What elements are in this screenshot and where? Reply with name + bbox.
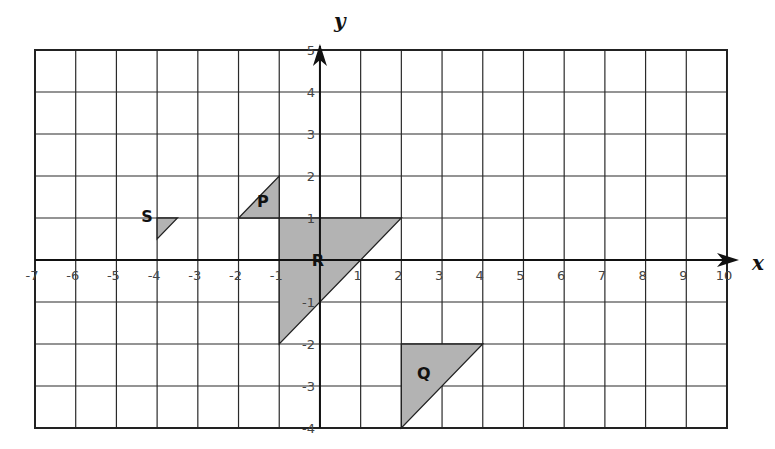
- triangle-s: [157, 218, 177, 239]
- y-tick-label: -2: [302, 337, 315, 352]
- x-tick-label: -6: [66, 268, 79, 283]
- x-tick-label: 4: [476, 268, 484, 283]
- y-tick-label: 5: [307, 43, 315, 58]
- y-tick-label: 2: [307, 169, 315, 184]
- coordinate-grid: PRQS -7-6-5-4-3-2-11234567891054321-1-2-…: [0, 0, 775, 449]
- x-tick-label: 3: [435, 268, 443, 283]
- x-tick-label: 6: [557, 268, 565, 283]
- shape-label-s: S: [141, 207, 153, 226]
- x-tick-label: 7: [598, 268, 606, 283]
- x-axis-label: x: [751, 251, 765, 275]
- x-tick-label: 5: [516, 268, 524, 283]
- x-tick-label: 10: [716, 268, 733, 283]
- x-tick-label: 1: [354, 268, 362, 283]
- y-tick-label: -1: [302, 295, 315, 310]
- y-tick-label: 1: [307, 211, 315, 226]
- y-axis-label: y: [333, 9, 347, 33]
- x-tick-label: 8: [638, 268, 646, 283]
- x-tick-label: -1: [270, 268, 283, 283]
- x-tick-label: -7: [26, 268, 39, 283]
- y-tick-label: 4: [307, 85, 315, 100]
- x-tick-label: 9: [679, 268, 687, 283]
- shape-label-p: P: [257, 192, 269, 211]
- x-tick-label: -4: [148, 268, 161, 283]
- axes: [35, 44, 739, 428]
- triangle-r: [279, 218, 401, 344]
- shape-label-q: Q: [417, 364, 431, 383]
- x-tick-label: -3: [188, 268, 201, 283]
- y-tick-label: -3: [302, 379, 315, 394]
- x-tick-label: -5: [107, 268, 120, 283]
- x-tick-label: -2: [229, 268, 242, 283]
- x-tick-label: 2: [394, 268, 402, 283]
- y-tick-label: 3: [307, 127, 315, 142]
- y-tick-label: -4: [302, 421, 315, 436]
